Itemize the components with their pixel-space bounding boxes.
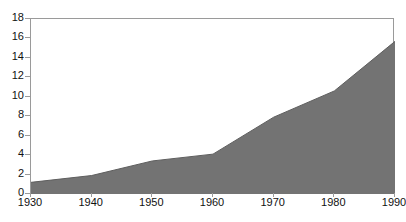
plot-area (30, 18, 394, 193)
y-axis-tick-label: 10 (0, 90, 24, 101)
area-series-svg (31, 19, 395, 194)
x-axis-tick-label: 1960 (200, 196, 224, 208)
x-axis-tick-mark (273, 193, 274, 197)
y-axis-tick-label: 6 (0, 129, 24, 140)
y-axis-tick-label: 18 (0, 12, 24, 23)
x-axis-tick-mark (91, 193, 92, 197)
x-axis-tick-mark (151, 193, 152, 197)
x-axis-tick-label: 1940 (78, 196, 102, 208)
x-axis-tick-label: 1950 (139, 196, 163, 208)
area-series-fill (31, 41, 395, 194)
x-axis-tick-label: 1970 (260, 196, 284, 208)
y-axis-tick-label: 8 (0, 109, 24, 120)
y-axis-tick-label: 12 (0, 70, 24, 81)
x-axis-tick-mark (394, 193, 395, 197)
x-axis-tick-label: 1930 (18, 196, 42, 208)
y-axis-tick-label: 16 (0, 31, 24, 42)
x-axis-tick-group: 1930194019501960197019801990 (0, 196, 404, 216)
y-axis-tick-label: 4 (0, 148, 24, 159)
x-axis-tick-label: 1990 (382, 196, 406, 208)
x-axis-tick-label: 1980 (321, 196, 345, 208)
x-axis-tick-mark (212, 193, 213, 197)
y-axis-tick-label: 14 (0, 51, 24, 62)
y-axis-tick-label: 2 (0, 168, 24, 179)
x-axis-tick-mark (30, 193, 31, 197)
x-axis-tick-mark (333, 193, 334, 197)
